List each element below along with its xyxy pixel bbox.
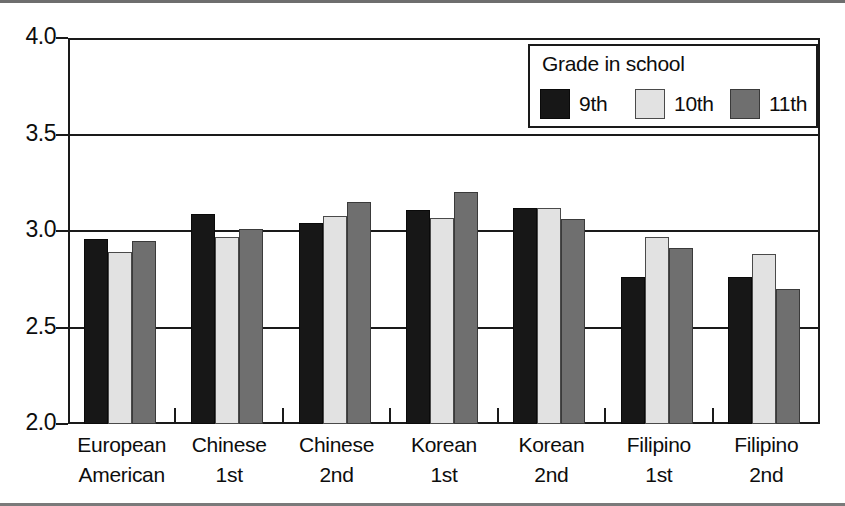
bar: [776, 289, 800, 424]
x-axis-label-line1: Korean: [518, 433, 584, 456]
x-axis-label: Korean1st: [390, 430, 497, 490]
x-axis-label-line2: 1st: [390, 460, 497, 490]
bar: [669, 248, 693, 424]
bar: [645, 237, 669, 424]
bar: [191, 214, 215, 424]
y-tick-label: 2.0: [2, 409, 56, 436]
x-axis-label: Korean2nd: [498, 430, 605, 490]
x-axis-label-line1: Filipino: [627, 433, 691, 456]
x-axis-label-line2: 1st: [175, 460, 282, 490]
y-tick-mark: [56, 423, 68, 425]
y-tick-label: 3.0: [2, 216, 56, 243]
x-axis-label-line2: 2nd: [713, 460, 820, 490]
y-tick-label: 4.0: [2, 23, 56, 50]
x-axis-label-line1: Filipino: [734, 433, 798, 456]
bar: [561, 219, 585, 424]
bar: [537, 208, 561, 424]
y-tick-label: 3.5: [2, 120, 56, 147]
legend-item-label: 11th: [769, 92, 807, 116]
swatch-10th: [635, 89, 665, 119]
swatch-11th: [730, 89, 760, 119]
bar: [347, 202, 371, 424]
legend-item-label: 9th: [579, 92, 607, 116]
y-tick-mark: [56, 230, 68, 232]
x-tick-mark: [497, 408, 499, 424]
x-axis-label: Chinese2nd: [283, 430, 390, 490]
chart-page: 4.03.53.02.52.0 EuropeanAmericanChinese1…: [0, 0, 845, 506]
y-tick-mark: [56, 134, 68, 136]
bar: [430, 218, 454, 425]
bar: [323, 216, 347, 424]
bar: [299, 223, 323, 424]
x-axis-label-line1: European: [77, 433, 166, 456]
x-axis-label-line1: Chinese: [299, 433, 374, 456]
x-axis-label: Filipino1st: [605, 430, 712, 490]
x-axis-label: EuropeanAmerican: [68, 430, 175, 490]
legend-item: 9th: [540, 86, 607, 122]
x-tick-mark: [174, 408, 176, 424]
x-axis-label-line2: 2nd: [498, 460, 605, 490]
bar: [239, 229, 263, 424]
legend-item-label: 10th: [674, 92, 714, 116]
legend-box: Grade in school 9th10th11th: [528, 44, 818, 128]
x-axis-label: Chinese1st: [175, 430, 282, 490]
bar: [728, 277, 752, 424]
bar: [752, 254, 776, 424]
bar: [513, 208, 537, 424]
y-tick-mark: [56, 327, 68, 329]
x-axis-labels: EuropeanAmericanChinese1stChinese2ndKore…: [68, 430, 820, 502]
swatch-9th: [540, 89, 570, 119]
y-tick-label: 2.5: [2, 313, 56, 340]
x-tick-mark: [712, 408, 714, 424]
bar: [215, 237, 239, 424]
x-axis-label-line2: American: [68, 460, 175, 490]
x-tick-mark: [282, 408, 284, 424]
bar: [108, 252, 132, 424]
legend-title: Grade in school: [542, 52, 685, 76]
bar: [132, 241, 156, 424]
bar: [454, 192, 478, 424]
legend-item: 10th: [635, 86, 714, 122]
x-axis-label-line2: 2nd: [283, 460, 390, 490]
bar: [406, 210, 430, 424]
x-axis-label-line1: Korean: [411, 433, 477, 456]
bar: [621, 277, 645, 424]
legend-items: 9th10th11th: [540, 86, 812, 124]
legend-item: 11th: [730, 86, 807, 122]
x-axis-label-line1: Chinese: [192, 433, 267, 456]
x-axis-label-line2: 1st: [605, 460, 712, 490]
x-axis-label: Filipino2nd: [713, 430, 820, 490]
x-tick-mark: [389, 408, 391, 424]
y-tick-mark: [56, 37, 68, 39]
grouped-bar-chart: 4.03.53.02.52.0 EuropeanAmericanChinese1…: [0, 0, 845, 506]
x-tick-mark: [604, 408, 606, 424]
bar: [84, 239, 108, 424]
